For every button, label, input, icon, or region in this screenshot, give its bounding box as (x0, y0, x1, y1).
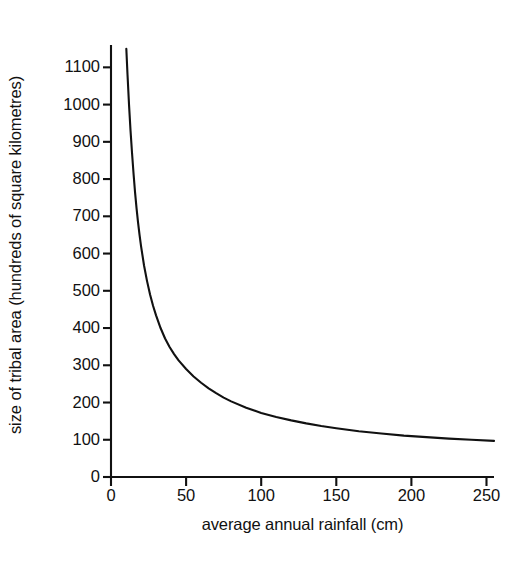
x-tick-label: 250 (456, 487, 516, 504)
y-tick-label: 1100 (40, 58, 100, 75)
y-tick-label: 800 (40, 170, 100, 187)
y-tick-label: 600 (40, 245, 100, 262)
x-axis-title: average annual rainfall (cm) (111, 515, 494, 534)
x-tick-label: 200 (381, 487, 441, 504)
y-axis-ticks (103, 67, 111, 477)
y-tick-label: 1000 (40, 96, 100, 113)
x-axis-ticks (111, 477, 486, 486)
y-tick-label: 200 (40, 394, 100, 411)
y-tick-label: 300 (40, 356, 100, 373)
x-tick-label: 0 (81, 487, 141, 504)
x-tick-label-wrap: 200 (381, 487, 441, 504)
y-tick-label: 900 (40, 133, 100, 150)
data-series-line (126, 49, 494, 441)
x-tick-label-wrap: 0 (81, 487, 141, 504)
y-tick-label: 400 (40, 319, 100, 336)
x-tick-label: 150 (306, 487, 366, 504)
x-tick-label-wrap: 150 (306, 487, 366, 504)
y-tick-label: 0 (40, 468, 100, 485)
x-tick-label-wrap: 250 (456, 487, 516, 504)
x-tick-label: 100 (231, 487, 291, 504)
x-tick-label: 50 (156, 487, 216, 504)
chart-figure: size of tribal area (hundreds of square … (0, 0, 526, 566)
x-tick-label-wrap: 100 (231, 487, 291, 504)
y-tick-label: 100 (40, 431, 100, 448)
x-tick-label-wrap: 50 (156, 487, 216, 504)
y-tick-label: 500 (40, 282, 100, 299)
y-tick-label: 700 (40, 207, 100, 224)
